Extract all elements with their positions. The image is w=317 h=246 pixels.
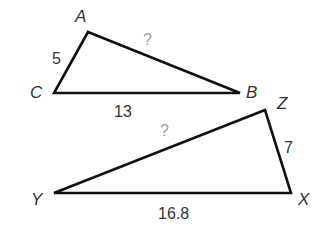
side-label-ab-unknown: ?	[143, 31, 152, 48]
side-label-zx: 7	[284, 139, 293, 156]
side-label-cb: 13	[114, 103, 132, 120]
side-label-ac: 5	[52, 50, 61, 67]
vertex-label-x: X	[297, 190, 310, 209]
side-label-yz-unknown: ?	[160, 122, 169, 139]
vertex-label-b: B	[246, 83, 257, 102]
vertex-label-a: A	[74, 7, 86, 26]
side-label-yx: 16.8	[158, 205, 189, 222]
triangle-xyz	[54, 110, 291, 193]
vertex-label-y: Y	[31, 190, 44, 209]
vertex-label-z: Z	[276, 94, 288, 113]
vertex-label-c: C	[30, 83, 43, 102]
similar-triangles-diagram: A B C 5 13 ? Z X Y 7 16.8 ?	[0, 0, 317, 246]
